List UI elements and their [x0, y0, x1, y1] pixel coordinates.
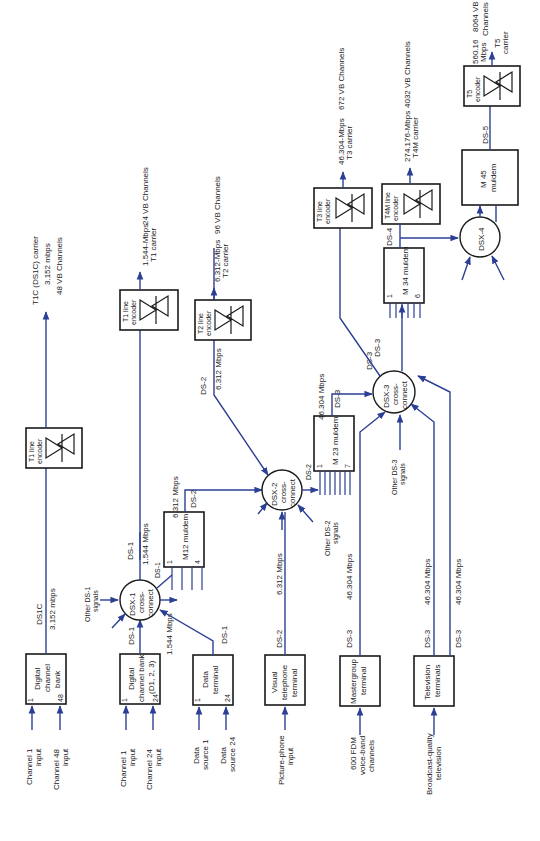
svg-text:television: television: [434, 747, 443, 780]
t1-line-encoder: T1 line encoder: [120, 290, 178, 330]
svg-text:input: input: [128, 748, 137, 766]
svg-text:6.312 Mbps: 6.312 Mbps: [171, 476, 180, 518]
t4m-line-encoder: T4M line encoder: [382, 184, 440, 224]
svg-text:voice-band: voice-band: [358, 736, 367, 775]
svg-text:24 VB Channels: 24 VB Channels: [141, 167, 150, 225]
svg-text:carrier: carrier: [501, 31, 510, 54]
svg-text:encoder: encoder: [36, 438, 43, 464]
svg-text:DSX-1: DSX-1: [128, 592, 137, 616]
svg-text:Other DS-3: Other DS-3: [391, 459, 398, 495]
svg-text:Visual: Visual: [270, 671, 279, 693]
svg-text:DS-3: DS-3: [454, 629, 463, 648]
svg-text:DS-1: DS-1: [126, 541, 135, 560]
t1c-line-encoder: T1 line encoder: [26, 428, 82, 468]
svg-text:signals: signals: [92, 590, 100, 612]
svg-text:3.152 mbps: 3.152 mbps: [48, 588, 57, 630]
svg-text:connect: connect: [146, 588, 155, 617]
svg-text:DS-1: DS-1: [154, 562, 161, 578]
svg-text:Digital: Digital: [33, 668, 42, 690]
svg-text:6.312 Mbps: 6.312 Mbps: [214, 348, 223, 390]
channel-48-input-label: Channel 48: [52, 749, 61, 790]
svg-text:input: input: [34, 748, 43, 766]
svg-text:terminal: terminal: [290, 668, 299, 697]
svg-text:M 45: M 45: [479, 170, 488, 188]
svg-text:Mbps: Mbps: [479, 42, 488, 62]
svg-text:channels: channels: [367, 740, 376, 772]
svg-text:DS-2: DS-2: [275, 629, 284, 648]
svg-text:46.304 Mbps: 46.304 Mbps: [345, 554, 354, 600]
svg-text:M 23 muldem: M 23 muldem: [331, 416, 340, 465]
svg-text:Channel 24: Channel 24: [145, 749, 154, 790]
svg-text:encoder: encoder: [130, 299, 137, 325]
svg-text:M12 muldem: M12 muldem: [181, 513, 190, 560]
dsx2-cross-connect: DSX-2 cross- connect: [262, 470, 302, 510]
svg-text:24: 24: [152, 694, 159, 702]
svg-text:48: 48: [57, 694, 64, 702]
svg-text:DSX-3: DSX-3: [382, 384, 391, 408]
svg-text:Television: Television: [423, 665, 432, 700]
svg-text:DS-4: DS-4: [385, 227, 394, 246]
svg-text:encoder: encoder: [205, 310, 212, 336]
svg-text:T1 line: T1 line: [28, 441, 35, 462]
svg-text:cross-: cross-: [137, 591, 146, 613]
svg-text:Data: Data: [201, 671, 210, 688]
svg-text:T3 line: T3 line: [316, 201, 323, 222]
svg-text:8064 VB: 8064 VB: [471, 1, 480, 32]
svg-text:T1 carrier: T1 carrier: [149, 227, 158, 262]
svg-text:1: 1: [194, 698, 201, 702]
svg-text:DS-3: DS-3: [333, 389, 342, 408]
svg-text:1.544 Mbps: 1.544 Mbps: [165, 613, 174, 655]
svg-text:input: input: [61, 748, 70, 766]
svg-text:channel: channel: [43, 664, 52, 692]
svg-text:T5: T5: [466, 90, 473, 98]
m23-muldem: M 23 muldem 1 7: [314, 416, 354, 471]
svg-text:T1 line: T1 line: [122, 301, 129, 322]
svg-text:DS-3: DS-3: [345, 629, 354, 648]
svg-text:DS-2: DS-2: [199, 376, 208, 395]
t2-line-encoder: T2 line encoder: [195, 300, 251, 340]
svg-text:DS-2: DS-2: [189, 489, 198, 508]
svg-text:6.312 Mbps: 6.312 Mbps: [275, 553, 284, 595]
digital-channel-bank-24: Digital channel bank (D1, 2, 3) 1 24: [120, 653, 160, 704]
svg-text:4: 4: [194, 560, 201, 564]
svg-text:muldem: muldem: [489, 163, 498, 192]
svg-text:encoder: encoder: [474, 76, 481, 102]
svg-text:encoder: encoder: [324, 198, 331, 224]
dsx3-cross-connect: DSX-3 cross- connect: [373, 371, 415, 413]
svg-text:6: 6: [414, 294, 421, 298]
svg-text:1: 1: [121, 698, 128, 702]
svg-text:Digital: Digital: [127, 668, 136, 690]
svg-text:1: 1: [316, 464, 323, 468]
svg-text:Data: Data: [219, 747, 228, 764]
svg-text:connect: connect: [400, 380, 409, 409]
svg-text:48 VB Channels: 48 VB Channels: [55, 237, 64, 295]
dsx4-cross-connect: DSX-4: [460, 217, 500, 257]
channel-1-input-label: Channel 1: [25, 748, 34, 785]
svg-text:DS-3: DS-3: [423, 629, 432, 648]
svg-text:encoder: encoder: [392, 195, 399, 221]
m34-muldem: M 34 muldem 1 6: [384, 246, 424, 303]
svg-text:Other DS-2: Other DS-2: [324, 520, 331, 556]
svg-text:Picture-phone: Picture-phone: [277, 735, 286, 785]
t3-line-encoder: T3 line encoder: [314, 188, 372, 228]
svg-text:telephone: telephone: [280, 664, 289, 700]
svg-text:Channel 1: Channel 1: [119, 750, 128, 787]
svg-text:DS1C: DS1C: [35, 603, 44, 625]
svg-text:connect: connect: [288, 478, 297, 507]
svg-text:T3 carrier: T3 carrier: [345, 125, 354, 160]
svg-text:terminal: terminal: [359, 666, 368, 695]
svg-text:Other DS-1: Other DS-1: [84, 586, 91, 622]
svg-text:source 24: source 24: [228, 736, 237, 772]
svg-text:source 1: source 1: [201, 739, 210, 770]
svg-text:DS-3: DS-3: [373, 338, 382, 357]
svg-text:cross-: cross-: [391, 383, 400, 405]
svg-text:M 34 muldem: M 34 muldem: [401, 246, 410, 295]
svg-text:1: 1: [166, 560, 173, 564]
svg-text:terminals: terminals: [433, 665, 442, 697]
svg-text:(D1, 2, 3): (D1, 2, 3): [147, 660, 156, 694]
svg-text:1: 1: [386, 294, 393, 298]
signal-hierarchy-diagram: Digital channel bank 1 48 Channel 1 inpu…: [0, 0, 540, 841]
svg-text:terminal: terminal: [211, 665, 220, 694]
t5-encoder: T5 encoder: [464, 66, 520, 106]
m45-muldem: M 45 muldem: [462, 150, 518, 205]
